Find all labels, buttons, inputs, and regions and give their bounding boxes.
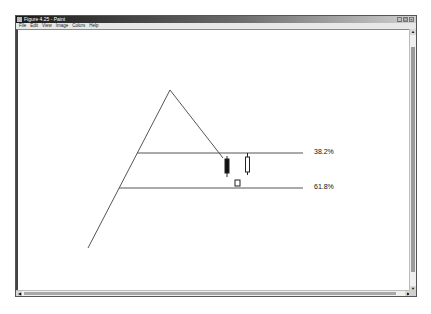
left-leg-line [88,90,170,248]
fibonacci-drawing [0,0,431,314]
candlestick-bullish-small [235,180,240,186]
candlestick-bullish [246,153,250,175]
retracement-level-label: 38.2% [314,148,334,155]
candlestick-bearish [225,156,229,177]
right-leg-line [170,90,223,158]
retracement-level-label: 61.8% [314,183,334,190]
